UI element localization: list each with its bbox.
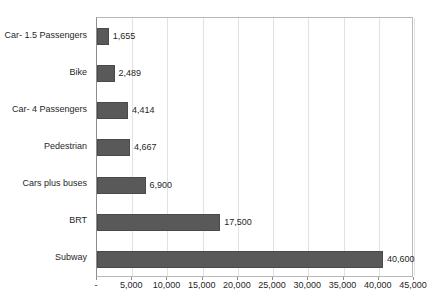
bar-value-label: 4,667 bbox=[134, 143, 157, 152]
bar-row[interactable]: 1,655 bbox=[97, 18, 412, 55]
bar[interactable] bbox=[97, 65, 115, 82]
category-label: Car- 4 Passengers bbox=[12, 105, 87, 114]
bar[interactable] bbox=[97, 102, 128, 119]
x-tick-label: 35,000 bbox=[329, 281, 357, 290]
category-label: BRT bbox=[69, 216, 87, 225]
x-tick-label: 5,000 bbox=[120, 281, 143, 290]
bar[interactable] bbox=[97, 139, 130, 156]
x-tick-label: 15,000 bbox=[188, 281, 216, 290]
bar-row[interactable]: 2,489 bbox=[97, 55, 412, 92]
category-label: Subway bbox=[55, 253, 87, 262]
x-axis-tick-labels: -5,00010,00015,00020,00025,00030,00035,0… bbox=[0, 281, 435, 297]
bar-row[interactable]: 4,667 bbox=[97, 129, 412, 166]
bar-value-label: 4,414 bbox=[132, 106, 155, 115]
category-axis-labels: Car- 1.5 PassengersBikeCar- 4 Passengers… bbox=[0, 17, 92, 277]
x-tick-label: 30,000 bbox=[294, 281, 322, 290]
bar[interactable] bbox=[97, 251, 383, 268]
category-label: Cars plus buses bbox=[22, 179, 87, 188]
x-tick-label: 25,000 bbox=[258, 281, 286, 290]
x-tick-label: - bbox=[95, 281, 98, 290]
x-tick-label: 45,000 bbox=[399, 281, 427, 290]
x-tick-label: 20,000 bbox=[223, 281, 251, 290]
bar-row[interactable]: 17,500 bbox=[97, 204, 412, 241]
bar-value-label: 1,655 bbox=[113, 32, 136, 41]
category-label: Car- 1.5 Passengers bbox=[4, 31, 87, 40]
bar-value-label: 17,500 bbox=[224, 218, 252, 227]
bar-value-label: 2,489 bbox=[119, 69, 142, 78]
bar[interactable] bbox=[97, 214, 220, 231]
plot-area: 1,6552,4894,4144,6676,90017,50040,600 bbox=[96, 17, 413, 277]
bar-value-label: 40,600 bbox=[387, 255, 415, 264]
bar[interactable] bbox=[97, 28, 109, 45]
bar-value-label: 6,900 bbox=[150, 181, 173, 190]
bar-row[interactable]: 6,900 bbox=[97, 167, 412, 204]
bar-row[interactable]: 40,600 bbox=[97, 241, 412, 278]
x-tick-label: 10,000 bbox=[153, 281, 181, 290]
category-label: Bike bbox=[69, 68, 87, 77]
gridline bbox=[414, 18, 415, 276]
category-label: Pedestrian bbox=[44, 142, 87, 151]
bar-chart-figure: 1,6552,4894,4144,6676,90017,50040,600 Ca… bbox=[0, 0, 435, 305]
bar-rows: 1,6552,4894,4144,6676,90017,50040,600 bbox=[97, 18, 412, 276]
bar[interactable] bbox=[97, 177, 146, 194]
x-tick-label: 40,000 bbox=[364, 281, 392, 290]
bar-row[interactable]: 4,414 bbox=[97, 92, 412, 129]
